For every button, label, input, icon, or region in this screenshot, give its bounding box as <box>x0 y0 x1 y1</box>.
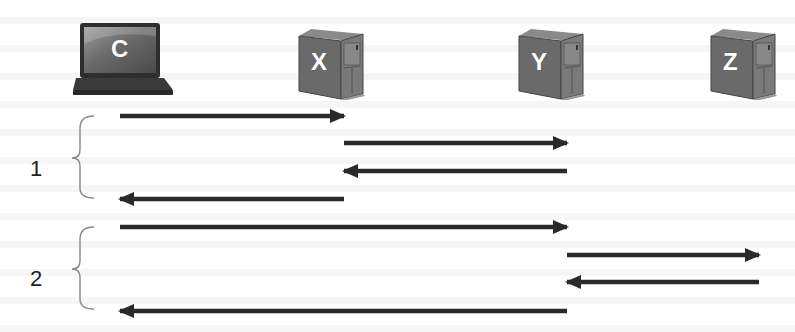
message-arrows <box>0 0 795 332</box>
sequence-diagram: C X Y <box>0 0 795 332</box>
